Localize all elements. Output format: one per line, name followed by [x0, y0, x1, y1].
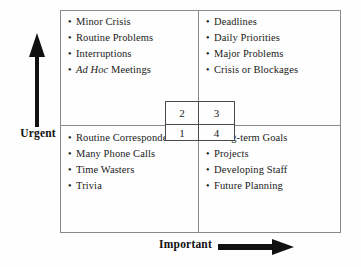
list-item-label: Crisis or Blockages — [214, 62, 298, 78]
bullet-icon: • — [68, 46, 76, 62]
bullet-icon: • — [206, 178, 214, 194]
bullet-icon: • — [206, 30, 214, 46]
list-item: • Major Problems — [206, 46, 336, 62]
list-item-label: Ad Hoc Meetings — [76, 62, 151, 78]
list-item: • Developing Staff — [206, 162, 336, 178]
list-item: • Crisis or Blockages — [206, 62, 336, 78]
bullet-icon: • — [68, 30, 76, 46]
list-item: • Trivia — [68, 178, 196, 194]
bullet-icon: • — [68, 14, 76, 30]
bullet-icon: • — [206, 14, 214, 30]
list-item-label: Projects — [214, 146, 249, 162]
priority-cell-bottom-right: 4 — [199, 125, 234, 140]
list-item: • Ad Hoc Meetings — [68, 62, 193, 78]
bullet-icon: • — [206, 162, 214, 178]
quadrant-urgent-and-important: • Deadlines • Daily Priorities • Major P… — [206, 14, 336, 78]
bullet-icon: • — [206, 46, 214, 62]
axis-label-important: Important — [140, 238, 212, 250]
list-item: • Time Wasters — [68, 162, 196, 178]
bullet-icon: • — [206, 62, 214, 78]
quadrant-urgent-not-important: • Minor Crisis • Routine Problems • Inte… — [68, 14, 193, 78]
arrow-right-icon — [218, 239, 294, 255]
list-item-label: Many Phone Calls — [76, 146, 155, 162]
list-item: • Projects — [206, 146, 336, 162]
priority-order-key: 2 3 1 4 — [165, 101, 235, 141]
list-item-label: Time Wasters — [76, 162, 134, 178]
list-item: • Future Planning — [206, 178, 336, 194]
list-item-label: Developing Staff — [214, 162, 287, 178]
list-item-label: Minor Crisis — [76, 14, 131, 30]
priority-cell-top-right: 3 — [199, 102, 234, 125]
list-item-label: Trivia — [76, 178, 102, 194]
list-item: • Routine Problems — [68, 30, 193, 46]
list-item-label-rest: Meetings — [108, 64, 151, 75]
arrow-up-icon — [25, 33, 49, 127]
bullet-icon: • — [68, 62, 76, 78]
list-item: • Deadlines — [206, 14, 336, 30]
bullet-icon: • — [68, 178, 76, 194]
list-item-label: Deadlines — [214, 14, 257, 30]
list-item-label: Daily Priorities — [214, 30, 280, 46]
list-item: • Many Phone Calls — [68, 146, 196, 162]
priority-cell-bottom-left: 1 — [166, 125, 199, 140]
diagram-canvas: • Minor Crisis • Routine Problems • Inte… — [0, 0, 361, 267]
bullet-icon: • — [68, 162, 76, 178]
list-item-label-italic: Ad Hoc — [76, 64, 108, 75]
list-item: • Interruptions — [68, 46, 193, 62]
axis-label-urgent: Urgent — [0, 127, 76, 139]
list-item-label: Future Planning — [214, 178, 283, 194]
list-item-label: Major Problems — [214, 46, 283, 62]
list-item-label: Interruptions — [76, 46, 132, 62]
bullet-icon: • — [68, 146, 76, 162]
bullet-icon: • — [206, 146, 214, 162]
list-item: • Minor Crisis — [68, 14, 193, 30]
priority-cell-top-left: 2 — [166, 102, 199, 125]
list-item-label: Routine Problems — [76, 30, 153, 46]
list-item: • Daily Priorities — [206, 30, 336, 46]
